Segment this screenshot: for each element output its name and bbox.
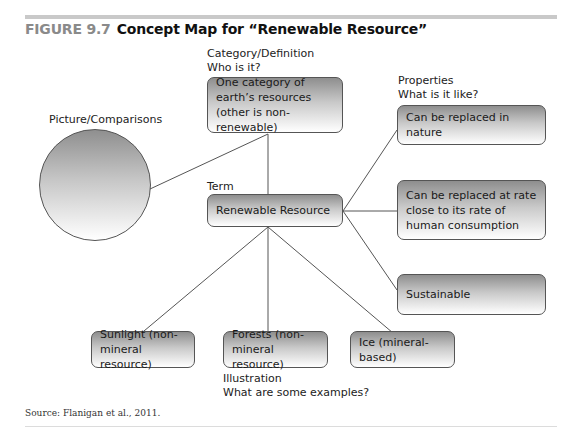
term-node: Renewable Resource [207, 194, 343, 227]
term-node-text: Renewable Resource [216, 203, 330, 218]
properties-question: What is it like? [398, 88, 478, 102]
example-node-2: Forests (non-mineral resource) [223, 331, 328, 368]
example-node-text: Forests (non-mineral resource) [232, 327, 319, 372]
link-term-example-1 [144, 227, 268, 331]
example-node-text: Ice (mineral-based) [359, 335, 446, 365]
link-term-example-3 [268, 227, 393, 333]
picture-circle [39, 129, 151, 241]
property-node-text: Can be replaced at rate close to its rat… [406, 188, 537, 233]
category-question: Who is it? [207, 61, 314, 75]
property-node-text: Sustainable [406, 287, 470, 302]
properties-heading: Properties [398, 74, 478, 88]
category-node: One category of earth’s resources (other… [207, 77, 343, 133]
picture-label: Picture/Comparisons [49, 113, 162, 127]
illustration-heading: Illustration [223, 372, 369, 386]
link-term-property-1 [343, 130, 397, 211]
category-node-text: One category of earth’s resources (other… [216, 75, 334, 135]
properties-label: Properties What is it like? [398, 74, 478, 102]
example-node-3: Ice (mineral-based) [350, 331, 455, 368]
source-citation: Source: Flanigan et al., 2011. [25, 408, 160, 418]
term-label: Term [207, 180, 234, 194]
link-term-property-3 [343, 211, 397, 290]
property-node-3: Sustainable [397, 274, 546, 315]
category-label: Category/Definition Who is it? [207, 47, 314, 75]
bottom-rule [25, 426, 557, 427]
example-node-text: Sunlight (non-mineral resource) [100, 327, 186, 372]
property-node-2: Can be replaced at rate close to its rat… [397, 180, 546, 240]
property-node-text: Can be replaced in nature [406, 110, 537, 140]
illustration-question: What are some examples? [223, 386, 369, 400]
example-node-1: Sunlight (non-mineral resource) [91, 331, 195, 368]
illustration-label: Illustration What are some examples? [223, 372, 369, 400]
property-node-1: Can be replaced in nature [397, 105, 546, 145]
category-heading: Category/Definition [207, 47, 314, 61]
